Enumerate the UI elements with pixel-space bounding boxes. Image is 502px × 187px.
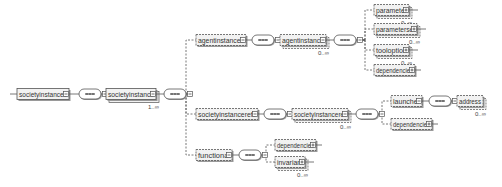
element-node-parameter[interactable]: parameter0..∞	[374, 5, 418, 26]
element-node-agentinstances[interactable]: agentinstances	[196, 35, 252, 48]
connector-seq4-parameter	[361, 10, 374, 40]
occurrence-label: 0..∞	[340, 124, 351, 130]
sequence-compositor-icon[interactable]	[79, 89, 108, 100]
element-label: dependencies	[277, 141, 314, 150]
element-label: societyinstancerefs	[198, 110, 256, 119]
connector-seq2-agentinstances	[186, 40, 196, 94]
connector-seq4-dependencies_a	[361, 40, 374, 70]
element-node-dependencies_c[interactable]: dependencies	[275, 140, 322, 153]
connector-seq4-parameterset	[361, 29, 374, 40]
occurrence-label: 0..∞	[297, 172, 308, 178]
element-label: parameter	[376, 6, 407, 15]
connector-seq4-tooloption	[361, 40, 374, 50]
element-node-societyinstance[interactable]: societyinstance1..∞	[106, 89, 165, 110]
sequence-compositor-icon[interactable]	[164, 89, 193, 100]
element-label: agentinstances	[198, 36, 244, 45]
sequence-compositor-icon[interactable]	[429, 96, 458, 107]
element-label: address	[459, 97, 481, 106]
element-label: dependencies	[376, 66, 413, 75]
element-label: parameterset	[376, 25, 416, 34]
occurrence-label: 0..∞	[318, 50, 329, 56]
occurrence-label: 1..∞	[148, 104, 159, 110]
element-node-address[interactable]: address0..∞	[457, 96, 486, 117]
element-node-agentinstance[interactable]: agentinstance0..∞	[280, 35, 335, 56]
sequence-compositor-icon[interactable]	[356, 109, 385, 120]
element-label: functional	[198, 151, 230, 160]
element-node-invariant[interactable]: invariant0..∞	[275, 157, 314, 178]
occurrence-label: 0..∞	[409, 39, 420, 45]
sequence-compositor-icon[interactable]	[239, 150, 268, 161]
sequence-compositor-icon[interactable]	[264, 109, 293, 120]
element-node-societyinstanceref[interactable]: societyinstanceref0..∞	[292, 109, 357, 130]
element-label: societyinstance	[108, 90, 154, 99]
element-label: societyinstanceref	[294, 110, 347, 119]
element-node-parameterset[interactable]: parameterset0..∞	[374, 24, 426, 45]
element-label: societyinstances	[19, 90, 67, 99]
schema-diagram: societyinstancessocietyinstance1..∞agent…	[0, 0, 502, 187]
schema-diagram-canvas: societyinstancessocietyinstance1..∞agent…	[0, 0, 502, 187]
element-node-launcher[interactable]: launcher	[391, 96, 428, 109]
element-node-societyinstancerefs[interactable]: societyinstancerefs	[196, 109, 264, 122]
element-node-dependencies_b[interactable]: dependencies	[391, 119, 438, 132]
occurrence-label: 0..∞	[475, 111, 486, 117]
sequence-compositor-icon[interactable]	[334, 35, 363, 46]
element-node-dependencies_a[interactable]: dependencies	[374, 65, 421, 78]
element-node-functional[interactable]: functional	[196, 150, 238, 163]
element-label: agentinstance	[282, 36, 324, 45]
sequence-compositor-icon[interactable]	[252, 35, 281, 46]
connector-seq2-functional	[186, 94, 196, 155]
element-node-tooloption[interactable]: tooloption0..∞	[374, 45, 418, 66]
connector-seq2-societyinstancerefs	[186, 94, 196, 114]
element-label: tooloption	[376, 46, 407, 55]
element-label: dependencies	[393, 120, 430, 129]
element-node-societyinstances[interactable]: societyinstances	[17, 89, 75, 102]
